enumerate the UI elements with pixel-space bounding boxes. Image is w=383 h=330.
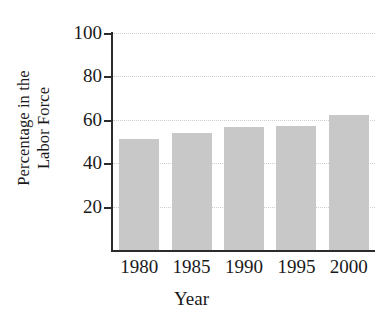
bar <box>172 133 212 250</box>
plot-area <box>113 33 375 250</box>
gridline <box>113 76 375 78</box>
x-axis-line <box>111 250 375 252</box>
y-axis-tick-label: 20 <box>58 197 102 216</box>
y-axis-tick-mark <box>104 120 113 122</box>
x-axis-tick-label: 1990 <box>214 256 274 278</box>
x-axis-title: Year <box>0 288 383 310</box>
y-axis-tick-label: 40 <box>58 153 102 172</box>
y-axis-tick-mark <box>104 33 113 35</box>
y-axis-tick-mark <box>104 76 113 78</box>
y-axis-title-line-2: Labor Force <box>34 70 54 185</box>
bar <box>119 139 159 250</box>
bar <box>329 115 369 250</box>
y-axis-tick-label: 80 <box>58 66 102 85</box>
y-axis-title-text: Percentage in the Labor Force <box>14 70 54 185</box>
x-axis-tick-label: 1995 <box>266 256 326 278</box>
y-axis-tick-mark <box>104 207 113 209</box>
y-axis-tick-label: 60 <box>58 110 102 129</box>
y-axis-title-line-1: Percentage in the <box>14 70 34 185</box>
gridline <box>113 33 375 35</box>
bar-chart: Percentage in the Labor Force 2040608010… <box>0 0 383 330</box>
y-axis-title: Percentage in the Labor Force <box>6 28 62 228</box>
y-axis-tick-mark <box>104 163 113 165</box>
bar <box>224 127 264 250</box>
x-axis-tick-label: 2000 <box>319 256 379 278</box>
bar <box>276 126 316 250</box>
y-axis-tick-label: 100 <box>58 23 102 42</box>
x-axis-tick-label: 1985 <box>162 256 222 278</box>
x-axis-tick-label: 1980 <box>109 256 169 278</box>
